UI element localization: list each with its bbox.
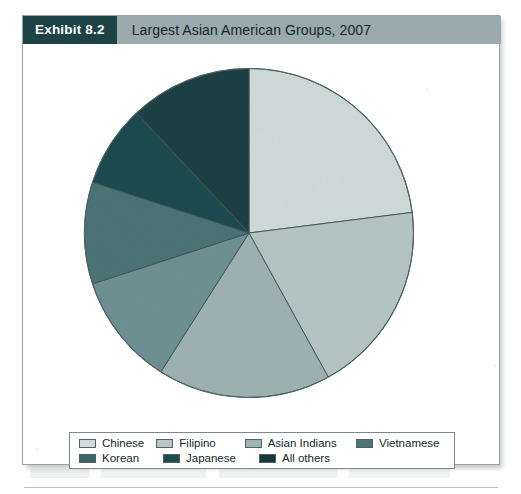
legend-label-asian-indians: Asian Indians <box>268 437 337 450</box>
page-bleed-artifact <box>30 469 450 478</box>
chart-legend: Chinese Filipino Asian Indians Vietnames… <box>69 432 455 469</box>
legend-swatch-chinese <box>79 439 96 448</box>
legend-label-vietnamese: Vietnamese <box>379 437 440 450</box>
exhibit-card: Exhibit 8.2 Largest Asian American Group… <box>22 15 500 465</box>
legend-item-filipino[interactable]: Filipino <box>156 437 244 450</box>
legend-row-2: Korean Japanese All others <box>79 451 448 466</box>
legend-item-korean[interactable]: Korean <box>79 452 163 465</box>
legend-item-all-others[interactable]: All others <box>259 452 380 465</box>
pie-slice-chinese[interactable] <box>249 69 412 234</box>
exhibit-title: Largest Asian American Groups, 2007 <box>117 22 371 38</box>
pie-slice-group <box>84 69 413 398</box>
legend-swatch-filipino <box>156 439 173 448</box>
legend-label-japanese: Japanese <box>186 452 236 465</box>
exhibit-number-tag: Exhibit 8.2 <box>23 16 117 44</box>
page-divider-rule <box>24 487 498 488</box>
legend-label-chinese: Chinese <box>102 437 144 450</box>
legend-item-asian-indians[interactable]: Asian Indians <box>245 437 356 450</box>
legend-label-filipino: Filipino <box>179 437 215 450</box>
legend-swatch-korean <box>79 454 96 463</box>
legend-row-1: Chinese Filipino Asian Indians Vietnames… <box>79 436 448 451</box>
legend-swatch-all-others <box>259 454 276 463</box>
exhibit-header: Exhibit 8.2 Largest Asian American Group… <box>23 16 501 44</box>
pie-chart <box>75 59 423 407</box>
legend-swatch-asian-indians <box>245 439 262 448</box>
chart-area: Chinese Filipino Asian Indians Vietnames… <box>23 44 501 466</box>
legend-swatch-vietnamese <box>356 439 373 448</box>
legend-label-all-others: All others <box>282 452 330 465</box>
legend-label-korean: Korean <box>102 452 139 465</box>
pie-chart-svg <box>75 59 423 407</box>
legend-item-japanese[interactable]: Japanese <box>163 452 259 465</box>
legend-item-vietnamese[interactable]: Vietnamese <box>356 437 448 450</box>
legend-item-chinese[interactable]: Chinese <box>79 437 156 450</box>
legend-swatch-japanese <box>163 454 180 463</box>
